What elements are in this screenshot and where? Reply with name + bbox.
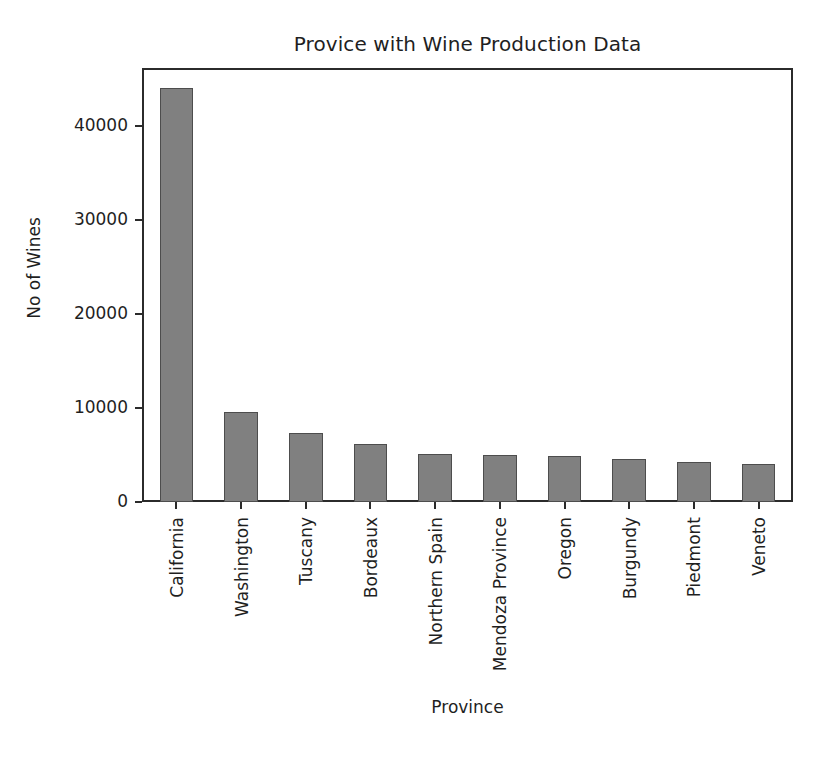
y-tick-mark (135, 313, 142, 315)
bar-washington (224, 412, 258, 502)
x-tick-label: Washington (241, 517, 242, 518)
x-tick-mark (175, 502, 177, 509)
x-tick-mark (434, 502, 436, 509)
y-tick-mark (135, 219, 142, 221)
y-tick-label: 30000 (54, 209, 128, 229)
y-axis-title: No of Wines (24, 188, 44, 348)
x-tick-label: Bordeaux (370, 517, 371, 518)
x-tick-mark (305, 502, 307, 509)
x-tick-label-text: Burgundy (620, 517, 640, 599)
x-tick-mark (693, 502, 695, 509)
x-tick-label: Burgundy (629, 517, 630, 518)
y-tick-mark (135, 125, 142, 127)
x-tick-mark (628, 502, 630, 509)
bar-piedmont (677, 462, 711, 502)
y-tick-label: 20000 (54, 303, 128, 323)
bar-veneto (742, 464, 776, 503)
x-tick-label-text: Bordeaux (361, 517, 381, 598)
x-tick-label-text: Mendoza Province (490, 517, 510, 671)
x-tick-label: California (176, 517, 177, 518)
y-tick-label: 10000 (54, 397, 128, 417)
x-tick-label-text: California (167, 517, 187, 598)
y-tick-mark (135, 501, 142, 503)
x-tick-label-text: Tuscany (296, 517, 316, 585)
x-tick-label: Oregon (565, 517, 566, 518)
bar-bordeaux (354, 444, 388, 502)
x-tick-label-text: Washington (232, 517, 252, 617)
plot-area (144, 70, 791, 502)
y-tick-mark (135, 407, 142, 409)
x-tick-mark (564, 502, 566, 509)
x-tick-label-text: Northern Spain (426, 517, 446, 645)
x-axis-title: Province (142, 697, 793, 717)
x-tick-label: Mendoza Province (500, 517, 501, 518)
bar-burgundy (612, 459, 646, 502)
x-tick-label-text: Veneto (749, 517, 769, 576)
x-tick-label-text: Piedmont (684, 517, 704, 597)
x-tick-label: Veneto (759, 517, 760, 518)
chart-title: Provice with Wine Production Data (142, 32, 793, 56)
x-tick-label-text: Oregon (555, 517, 575, 579)
x-tick-mark (369, 502, 371, 509)
x-tick-mark (240, 502, 242, 509)
x-tick-label: Tuscany (306, 517, 307, 518)
y-tick-label: 0 (54, 491, 128, 511)
y-tick-label: 40000 (54, 115, 128, 135)
bar-oregon (548, 456, 582, 502)
chart-figure: Provice with Wine Production Data No of … (0, 0, 819, 759)
bar-mendoza-province (483, 455, 517, 502)
bar-tuscany (289, 433, 323, 502)
bar-northern-spain (418, 454, 452, 502)
x-tick-label: Northern Spain (435, 517, 436, 518)
x-tick-label: Piedmont (694, 517, 695, 518)
y-axis-tick-labels: 010000200003000040000 (50, 0, 128, 759)
bar-california (160, 88, 194, 502)
x-tick-mark (499, 502, 501, 509)
x-tick-mark (758, 502, 760, 509)
